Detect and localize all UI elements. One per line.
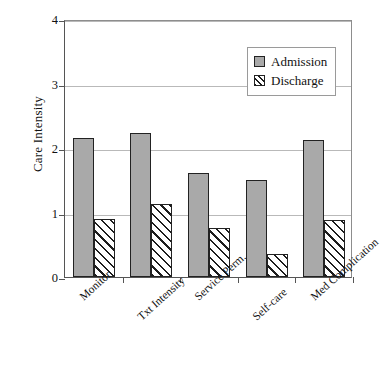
legend-label-admission: Admission [271,55,327,68]
x-axis-category-labels: MonitorTxt IntensityService Perm.Self-ca… [0,278,379,379]
chart-legend: Admission Discharge [247,47,336,96]
plot-area: Admission Discharge [64,20,352,278]
bar-discharge [151,204,172,277]
y-axis-tick-label: 4 [18,13,58,28]
x-axis-category-label: Self-care [250,286,289,323]
bar-admission [303,140,324,277]
bar-admission [130,133,151,277]
bar-discharge [267,254,288,277]
legend-label-discharge: Discharge [271,74,323,87]
legend-swatch-admission [254,56,265,67]
bar-group [123,21,181,277]
bar-admission [188,173,209,277]
bar-admission [73,138,94,277]
legend-item-admission: Admission [254,52,327,71]
bar-admission [246,180,267,277]
x-axis-category-label: Txt Intensity [135,274,187,322]
y-axis-tick-label: 3 [18,77,58,92]
bar-group [180,21,238,277]
legend-swatch-discharge [254,75,265,86]
bar-group [65,21,123,277]
y-axis-tick-label: 2 [18,142,58,157]
legend-item-discharge: Discharge [254,71,327,90]
y-axis-tick-labels: 01234 [18,20,58,278]
y-axis-tick-label: 1 [18,206,58,221]
